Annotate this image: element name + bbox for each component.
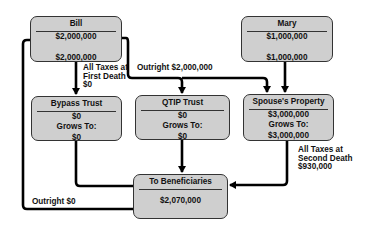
node-value: $3,000,000 xyxy=(244,131,333,142)
node-qtip-trust: QTIP Trust $0 Grows To: $0 xyxy=(135,95,230,140)
node-mary: Mary $1,000,000 $1,000,000 xyxy=(241,16,333,62)
label-line: $0 xyxy=(83,81,128,90)
node-grows-label: Grows To: xyxy=(32,122,121,133)
node-value: $3,000,000 xyxy=(244,110,333,121)
node-value: $1,000,000 xyxy=(242,53,332,64)
node-title: Spouse's Property xyxy=(249,97,328,110)
node-value: $0 xyxy=(32,112,121,123)
node-value: $0 xyxy=(136,132,229,143)
node-spacer xyxy=(31,42,121,53)
node-bill: Bill $2,000,000 $2,000,000 xyxy=(30,16,122,62)
node-title: QTIP Trust xyxy=(141,98,224,111)
node-bypass-trust: Bypass Trust $0 Grows To: $0 xyxy=(31,96,122,141)
node-value: $2,000,000 xyxy=(31,53,121,64)
node-title: Mary xyxy=(247,19,327,32)
arrow-spouse-to-beneficiaries xyxy=(230,141,287,185)
label-line: $930,000 xyxy=(298,163,353,172)
line-bypass-to-beneficiaries xyxy=(76,141,133,186)
node-grows-label: Grows To: xyxy=(244,120,333,131)
label-outright-bill: Outright $2,000,000 xyxy=(137,64,213,73)
node-value: $0 xyxy=(136,111,229,122)
node-title: To Beneficiaries xyxy=(139,177,222,190)
node-value: $2,000,000 xyxy=(31,32,121,43)
node-value: $1,000,000 xyxy=(242,32,332,43)
label-second-death-taxes: All Taxes at Second Death $930,000 xyxy=(298,146,353,172)
node-grows-label: Grows To: xyxy=(136,121,229,132)
node-value: $0 xyxy=(32,133,121,144)
node-spouses-property: Spouse's Property $3,000,000 Grows To: $… xyxy=(243,94,334,141)
node-title: Bill xyxy=(36,19,116,32)
arrow-bill-to-spouse xyxy=(182,78,267,92)
node-title: Bypass Trust xyxy=(37,99,116,112)
node-value: $2,070,000 xyxy=(134,196,227,207)
label-outright-zero: Outright $0 xyxy=(32,198,76,207)
label-first-death-taxes: All Taxes at First Death $0 xyxy=(83,64,128,90)
node-to-beneficiaries: To Beneficiaries $2,070,000 xyxy=(133,174,228,219)
node-spacer xyxy=(242,42,332,53)
